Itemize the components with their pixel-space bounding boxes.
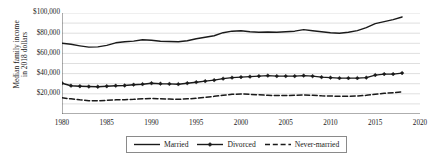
data-point: [311, 74, 315, 78]
gridlines: [62, 13, 420, 104]
x-tick-label: 1995: [179, 120, 213, 127]
series-line-divorced: [62, 73, 402, 87]
data-point: [230, 76, 234, 80]
data-point: [150, 81, 154, 85]
x-tick-label: 2010: [314, 120, 348, 127]
data-point: [176, 82, 180, 86]
legend-swatch-divorced-icon: [197, 140, 223, 149]
data-point: [239, 75, 243, 79]
data-point: [132, 83, 136, 87]
data-point: [293, 74, 297, 78]
x-tick-label: 2020: [403, 120, 435, 127]
data-point: [185, 81, 189, 85]
legend-item[interactable]: Divorced: [197, 140, 255, 149]
x-tick-label: 2000: [224, 120, 258, 127]
data-point: [347, 76, 351, 80]
data-point: [212, 78, 216, 82]
plot-svg: [62, 13, 420, 114]
legend-label: Married: [164, 141, 188, 149]
data-point: [114, 84, 118, 88]
data-point: [141, 82, 145, 86]
data-point: [69, 84, 73, 88]
data-point: [96, 85, 100, 89]
chart-figure: Median family income in 2018 dollars $20…: [0, 0, 435, 163]
legend-item[interactable]: Never-married: [265, 140, 340, 149]
data-point: [105, 84, 109, 88]
data-point: [203, 79, 207, 83]
plot-area: [62, 13, 420, 114]
data-point: [168, 82, 172, 86]
x-tick-label: 1980: [45, 120, 79, 127]
x-tick-label: 1990: [135, 120, 169, 127]
data-point: [329, 76, 333, 80]
legend-label: Divorced: [227, 141, 255, 149]
data-point: [221, 77, 225, 81]
data-point: [400, 71, 404, 75]
data-point: [320, 75, 324, 79]
legend-swatch-never-married-icon: [265, 140, 291, 149]
data-point: [355, 76, 359, 80]
x-tick-label: 2005: [269, 120, 303, 127]
data-point: [159, 82, 163, 86]
chart-legend: MarriedDivorcedNever-married: [126, 136, 347, 153]
data-point: [302, 74, 306, 78]
data-point: [391, 72, 395, 76]
data-point: [78, 84, 82, 88]
x-tick-label: 2015: [358, 120, 392, 127]
data-point: [364, 76, 368, 80]
legend-swatch-married-icon: [134, 140, 160, 149]
legend-label: Never-married: [295, 141, 340, 149]
data-point: [382, 72, 386, 76]
data-point: [275, 74, 279, 78]
x-tick-label: 1985: [90, 120, 124, 127]
series-line-never-married: [62, 92, 402, 101]
series-line-married: [62, 17, 402, 47]
data-point: [284, 74, 288, 78]
data-point: [266, 74, 270, 78]
data-point: [62, 81, 64, 85]
data-point: [257, 74, 261, 78]
data-point: [123, 84, 127, 88]
data-point: [248, 75, 252, 79]
data-point: [338, 76, 342, 80]
legend-item[interactable]: Married: [134, 140, 188, 149]
data-point: [87, 85, 91, 89]
